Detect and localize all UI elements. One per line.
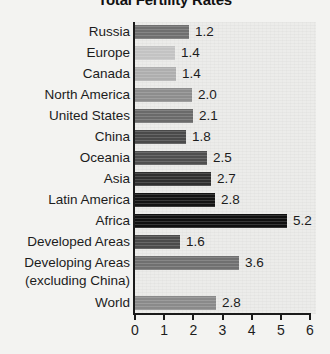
bar-category-label: Canada (0, 66, 130, 82)
bar-row: Asia2.7 (0, 169, 330, 190)
bar-value-label: 5.2 (293, 213, 312, 229)
bar-value-label: 1.8 (192, 129, 211, 145)
bar (135, 109, 193, 123)
bar-value-label: 1.4 (181, 45, 200, 61)
bar-value-label: 2.0 (198, 87, 217, 103)
bar (135, 296, 216, 310)
bar-row: Africa5.2 (0, 211, 330, 232)
bar (135, 235, 180, 249)
bar-category-label: Developed Areas (0, 234, 130, 250)
bar-category-label: Oceania (0, 150, 130, 166)
x-axis-tick-label: 6 (306, 322, 314, 338)
bar (135, 67, 176, 81)
x-axis-tick (251, 313, 253, 320)
bar-category-label: North America (0, 87, 130, 103)
bar-value-label: 1.6 (186, 234, 205, 250)
x-axis-tick (134, 313, 136, 320)
x-axis-tick (163, 313, 165, 320)
chart-figure: Total Fertility Rates Russia1.2Europe1.4… (0, 0, 330, 354)
bar-row: Canada1.4 (0, 64, 330, 85)
bar-row: North America2.0 (0, 85, 330, 106)
bar-category-label: Developing Areas (0, 255, 130, 271)
bar-category-label: Latin America (0, 192, 130, 208)
bar-row: Developing Areas3.6 (0, 253, 330, 274)
bar-category-label: Europe (0, 45, 130, 61)
bar (135, 172, 211, 186)
bar (135, 46, 175, 60)
x-axis-tick-label: 2 (189, 322, 197, 338)
bar-value-label: 2.1 (199, 108, 218, 124)
bar-value-label: 2.7 (217, 171, 236, 187)
bar-category-label-continuation-row: (excluding China) (0, 274, 330, 293)
x-axis-tick (192, 313, 194, 320)
bar-category-label: Asia (0, 171, 130, 187)
bar (135, 214, 287, 228)
x-axis-tick (309, 313, 311, 320)
bar-row: World2.8 (0, 293, 330, 314)
bar-row: Europe1.4 (0, 43, 330, 64)
bar-row: Russia1.2 (0, 22, 330, 43)
bar (135, 88, 192, 102)
bar-value-label: 2.8 (222, 295, 241, 311)
chart-title: Total Fertility Rates (0, 0, 330, 8)
x-axis-tick-label: 0 (131, 322, 139, 338)
bar-value-label: 1.4 (182, 66, 201, 82)
x-axis-tick-label: 1 (160, 322, 168, 338)
x-axis-tick-label: 5 (277, 322, 285, 338)
bar-row: United States2.1 (0, 106, 330, 127)
bar (135, 256, 239, 270)
bar-row: China1.8 (0, 127, 330, 148)
bar-category-label-continuation: (excluding China) (0, 273, 130, 289)
bar (135, 25, 189, 39)
bar (135, 193, 215, 207)
bar-rows: Russia1.2Europe1.4Canada1.4North America… (0, 22, 330, 314)
bar-value-label: 3.6 (245, 255, 264, 271)
bar-value-label: 1.2 (195, 24, 214, 40)
bar-row: Oceania2.5 (0, 148, 330, 169)
bar-category-label: China (0, 129, 130, 145)
x-axis-tick-label: 4 (248, 322, 256, 338)
x-axis-tick-label: 3 (219, 322, 227, 338)
bar-row: Latin America2.8 (0, 190, 330, 211)
bar-row: Developed Areas1.6 (0, 232, 330, 253)
bar (135, 151, 207, 165)
bar-category-label: Russia (0, 24, 130, 40)
x-axis-tick (222, 313, 224, 320)
bar-value-label: 2.5 (213, 150, 232, 166)
bar (135, 130, 186, 144)
bar-category-label: World (0, 295, 130, 311)
bar-category-label: United States (0, 108, 130, 124)
x-axis-tick (280, 313, 282, 320)
bar-category-label: Africa (0, 213, 130, 229)
bar-value-label: 2.8 (221, 192, 240, 208)
